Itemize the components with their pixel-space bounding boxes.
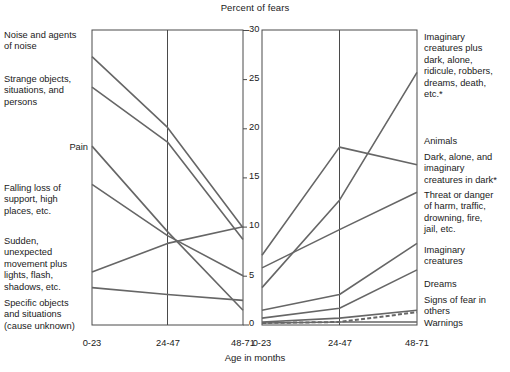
left-series-label-sudden-unexpected-movement: Sudden, unexpected movement plus lights,… — [4, 236, 90, 293]
right-series-label-imaginary-creatures: Imaginary creatures — [424, 245, 510, 268]
right-series-label-warnings: Warnings — [424, 318, 510, 329]
x-tick-left-0-23: 0-23 — [72, 338, 112, 348]
right-series-label-imaginary-creatures-plus-dark: Imaginary creatures plus dark, alone, ri… — [424, 32, 510, 100]
right-series-label-animals: Animals — [424, 136, 510, 147]
right-series-label-dark-alone-imaginary-creatures-in-dark: Dark, alone, and imaginary creatures in … — [424, 152, 510, 186]
left-panel-frame — [92, 30, 243, 325]
left-series-label-specific-objects-and-situations: Specific objects and situations (cause u… — [4, 298, 92, 332]
chart-root: Percent of fears — [0, 0, 510, 372]
left-series-label-pain: Pain — [4, 142, 88, 153]
right-series-label-threat-or-danger-of-harm: Threat or danger of harm, traffic, drown… — [424, 190, 510, 236]
y-tick-20: 20 — [249, 122, 265, 132]
y-tick-10: 10 — [249, 220, 265, 230]
x-tick-right-48-71: 48-71 — [397, 338, 437, 348]
y-tick-30: 30 — [249, 24, 265, 34]
y-tick-0: 0 — [249, 318, 265, 328]
left-series-label-noise-and-agents-of-noise: Noise and agents of noise — [4, 30, 90, 53]
right-series-label-signs-of-fear-in-others: Signs of fear in others — [424, 295, 510, 318]
y-tick-5: 5 — [249, 270, 265, 280]
y-tick-15: 15 — [249, 171, 265, 181]
x-tick-right-24-47: 24-47 — [320, 338, 360, 348]
right-series-label-dreams: Dreams — [424, 279, 510, 290]
left-series-label-falling-loss-of-support: Falling loss of support, high places, et… — [4, 183, 90, 217]
x-axis-title: Age in months — [0, 352, 510, 363]
x-tick-left-24-47: 24-47 — [148, 338, 188, 348]
x-tick-right-0-23: 0-23 — [242, 338, 282, 348]
y-tick-25: 25 — [249, 73, 265, 83]
left-series-label-strange-objects: Strange objects, situations, and persons — [4, 74, 90, 108]
